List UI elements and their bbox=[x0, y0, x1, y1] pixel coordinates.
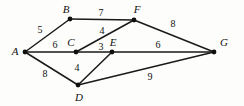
edge-weight-d-g: 9 bbox=[148, 72, 153, 82]
node-label-g: G bbox=[220, 37, 228, 48]
edge-weight-e-g: 6 bbox=[156, 40, 161, 50]
graph-edge-a-b bbox=[25, 19, 70, 52]
graph-node-c bbox=[74, 50, 79, 55]
edges-layer bbox=[25, 19, 214, 85]
graph-node-d bbox=[76, 83, 81, 88]
edge-weight-c-e: 3 bbox=[99, 42, 104, 52]
node-label-f: F bbox=[134, 4, 141, 15]
graph-edge-c-f bbox=[76, 20, 134, 52]
node-label-d: D bbox=[75, 92, 83, 103]
graph-node-e bbox=[110, 50, 115, 55]
edge-weight-d-e: 4 bbox=[75, 63, 80, 73]
graph-edge-b-f bbox=[70, 19, 134, 20]
edge-weight-a-c: 6 bbox=[53, 40, 58, 50]
node-label-e: E bbox=[110, 37, 117, 48]
graph-node-b bbox=[68, 17, 73, 22]
node-label-c: C bbox=[67, 37, 74, 48]
edge-weight-b-f: 7 bbox=[99, 8, 104, 18]
graph-edge-a-d bbox=[25, 52, 78, 85]
node-label-a: A bbox=[12, 46, 19, 57]
graph-node-g bbox=[212, 50, 217, 55]
graph-canvas bbox=[0, 0, 244, 106]
graph-edge-d-e bbox=[78, 52, 112, 85]
edge-weight-a-b: 5 bbox=[38, 25, 43, 35]
graph-edge-d-g bbox=[78, 52, 214, 85]
graph-node-f bbox=[132, 18, 137, 23]
graph-figure: 5687434689ABCDEFG bbox=[0, 0, 244, 106]
graph-node-a bbox=[23, 50, 28, 55]
node-label-b: B bbox=[63, 4, 70, 15]
edge-weight-a-d: 8 bbox=[43, 69, 48, 79]
edge-weight-c-f: 4 bbox=[100, 26, 105, 36]
edge-weight-f-g: 8 bbox=[171, 19, 176, 29]
